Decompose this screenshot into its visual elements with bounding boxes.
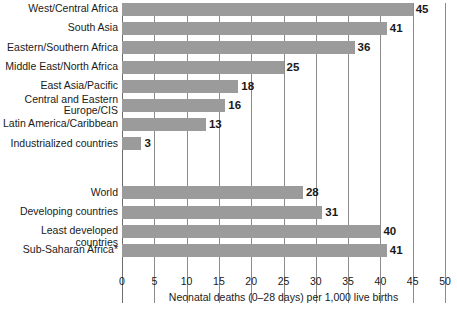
bar xyxy=(122,41,355,54)
bar-row: 18 xyxy=(122,80,445,93)
bar-row: 40 xyxy=(122,225,445,238)
category-label: Eastern/Southern Africa xyxy=(0,42,118,54)
category-label: Latin America/Caribbean xyxy=(0,118,118,130)
bar-row: 3 xyxy=(122,137,445,150)
category-label: World xyxy=(0,187,118,199)
plot-area: 45413625181613328314041 xyxy=(122,3,445,273)
x-axis-ticks: 05101520253035404550 xyxy=(122,275,445,291)
bar-value-label: 16 xyxy=(228,98,241,112)
bar-row: 41 xyxy=(122,244,445,257)
category-label: Central and Eastern Europe/CIS xyxy=(0,94,118,117)
category-label: Industrialized countries xyxy=(0,138,118,150)
bar-value-label: 18 xyxy=(241,79,254,93)
category-label: Middle East/North Africa xyxy=(0,61,118,73)
bar-value-label: 41 xyxy=(390,243,403,257)
bar-row: 45 xyxy=(122,3,445,16)
bar-value-label: 25 xyxy=(287,60,300,74)
x-tick-0: 0 xyxy=(119,275,125,287)
bar-value-label: 31 xyxy=(325,205,338,219)
gridline-50 xyxy=(445,3,446,303)
bar-row: 25 xyxy=(122,61,445,74)
bar xyxy=(122,3,413,16)
bar-row: 13 xyxy=(122,118,445,131)
bar-row: 36 xyxy=(122,41,445,54)
bar-row: 31 xyxy=(122,206,445,219)
x-tick-5: 5 xyxy=(151,275,157,287)
bar-value-label: 3 xyxy=(144,136,150,150)
x-tick-15: 15 xyxy=(213,275,225,287)
bar-value-label: 41 xyxy=(390,21,403,35)
x-axis-title: Neonatal deaths (0–28 days) per 1,000 li… xyxy=(122,291,445,303)
x-tick-25: 25 xyxy=(278,275,290,287)
bar-value-label: 40 xyxy=(383,224,396,238)
x-tick-10: 10 xyxy=(181,275,193,287)
category-axis-labels: West/Central AfricaSouth AsiaEastern/Sou… xyxy=(0,0,118,280)
category-label: East Asia/Pacific xyxy=(0,80,118,92)
x-tick-45: 45 xyxy=(407,275,419,287)
bar xyxy=(122,22,387,35)
category-label: Sub-Saharan Africa* xyxy=(0,244,118,256)
bar-row: 16 xyxy=(122,99,445,112)
bar xyxy=(122,80,238,93)
category-label: South Asia xyxy=(0,22,118,34)
category-label: Developing countries xyxy=(0,206,118,218)
bar xyxy=(122,206,322,219)
x-tick-50: 50 xyxy=(439,275,451,287)
bar-row: 41 xyxy=(122,22,445,35)
bar xyxy=(122,244,387,257)
bar-value-label: 28 xyxy=(306,185,319,199)
bar xyxy=(122,225,380,238)
category-label: West/Central Africa xyxy=(0,3,118,15)
bar-row: 28 xyxy=(122,186,445,199)
bar xyxy=(122,186,303,199)
bar xyxy=(122,118,206,131)
neonatal-deaths-bar-chart: West/Central AfricaSouth AsiaEastern/Sou… xyxy=(0,0,457,314)
bar-value-label: 36 xyxy=(358,40,371,54)
bar xyxy=(122,137,141,150)
x-tick-35: 35 xyxy=(342,275,354,287)
x-tick-20: 20 xyxy=(245,275,257,287)
x-tick-30: 30 xyxy=(310,275,322,287)
bar-value-label: 45 xyxy=(416,2,429,16)
x-tick-40: 40 xyxy=(375,275,387,287)
bar xyxy=(122,99,225,112)
bar xyxy=(122,61,284,74)
bar-value-label: 13 xyxy=(209,117,222,131)
